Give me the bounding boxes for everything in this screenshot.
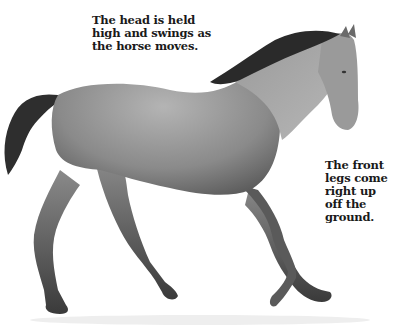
horse-head bbox=[318, 33, 359, 130]
horse-illustration: The head is held high and swings as the … bbox=[0, 0, 399, 329]
tail bbox=[5, 94, 58, 175]
head-caption: The head is held high and swings as the … bbox=[92, 14, 211, 53]
legs-caption-line: ground. bbox=[325, 211, 388, 224]
horse-eye bbox=[342, 71, 346, 73]
hind-leg-rear bbox=[34, 170, 80, 314]
head-caption-line: the horse moves. bbox=[92, 40, 211, 53]
horse-ears bbox=[340, 24, 356, 38]
front-legs-caption: The front legs come right up off the gro… bbox=[325, 159, 388, 224]
ground-shadow bbox=[30, 315, 370, 325]
